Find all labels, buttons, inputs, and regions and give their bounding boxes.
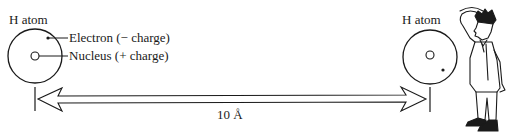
right-electron — [441, 68, 444, 71]
hydrogen-atoms-diagram: H atom Electron (− charge) Nucleus (+ ch… — [0, 0, 515, 139]
person-figure-icon — [460, 8, 505, 132]
right-nucleus — [426, 51, 434, 59]
left-nucleus — [31, 52, 39, 60]
electron-label: Electron (− charge) — [69, 31, 170, 45]
nucleus-label: Nucleus (+ charge) — [69, 49, 169, 63]
right-atom-title: H atom — [402, 13, 441, 27]
left-atom-title: H atom — [9, 13, 48, 27]
distance-label: 10 Å — [217, 108, 243, 122]
